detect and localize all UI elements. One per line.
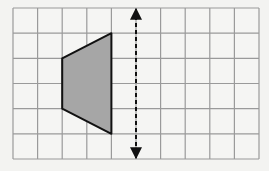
reflection-diagram <box>0 0 269 171</box>
diagram-canvas <box>0 0 269 171</box>
